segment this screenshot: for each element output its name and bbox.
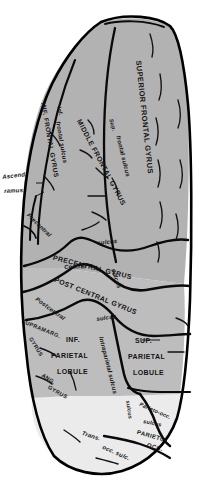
brain-diagram-svg (0, 0, 200, 487)
brain-illustration-figure: SUPERIOR FRONTAL GYRUS Sup. frontal sulc… (0, 0, 200, 487)
